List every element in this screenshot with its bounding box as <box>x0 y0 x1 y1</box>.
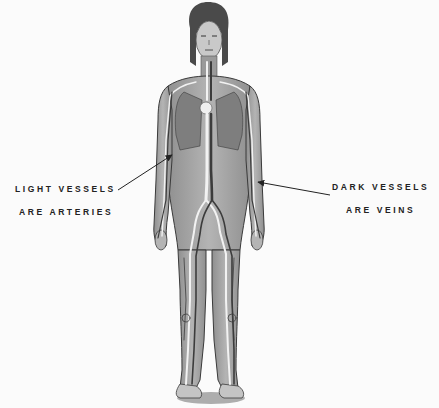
veins-label-line2: ARE VEINS <box>346 205 415 215</box>
right-lung <box>216 92 243 150</box>
left-lung <box>175 92 202 150</box>
left-hand <box>155 230 167 250</box>
veins-arrow <box>258 182 330 195</box>
heart <box>200 102 212 114</box>
arteries-label-line2: ARE ARTERIES <box>19 207 113 217</box>
arteries-label-line1: LIGHT VESSELS <box>15 184 116 194</box>
right-hand <box>251 230 263 250</box>
left-foot <box>176 384 201 398</box>
right-foot <box>219 384 243 398</box>
circulatory-figure <box>0 0 439 408</box>
veins-label-line1: DARK VESSELS <box>332 182 429 192</box>
neck <box>201 56 217 78</box>
